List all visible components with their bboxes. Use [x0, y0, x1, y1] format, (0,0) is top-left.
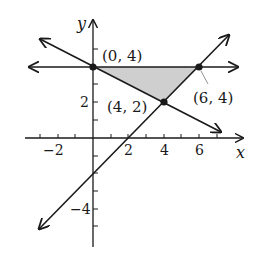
tick-label-x-2: 2 — [124, 142, 133, 158]
point-label-6-4: (6, 4) — [193, 89, 233, 107]
point-6-4 — [195, 63, 202, 70]
leader-line — [201, 71, 208, 84]
tick-label-x-6: 6 — [195, 142, 204, 158]
tick-label-y-neg4: −4 — [70, 201, 91, 217]
tick-label-x-4: 4 — [160, 142, 169, 158]
x-axis-label: x — [236, 143, 245, 162]
tick-label-x-neg2: −2 — [43, 142, 64, 158]
coordinate-plane: y x (0, 4) (4, 2) (6, 4) −2 2 4 6 2 −4 — [0, 0, 256, 255]
tick-label-y-2: 2 — [80, 94, 89, 110]
point-0-4 — [89, 63, 96, 70]
point-4-2 — [160, 98, 167, 105]
point-label-0-4: (0, 4) — [102, 47, 142, 65]
y-axis-label: y — [76, 14, 87, 33]
point-label-4-2: (4, 2) — [107, 98, 147, 116]
shaded-region — [93, 67, 199, 102]
